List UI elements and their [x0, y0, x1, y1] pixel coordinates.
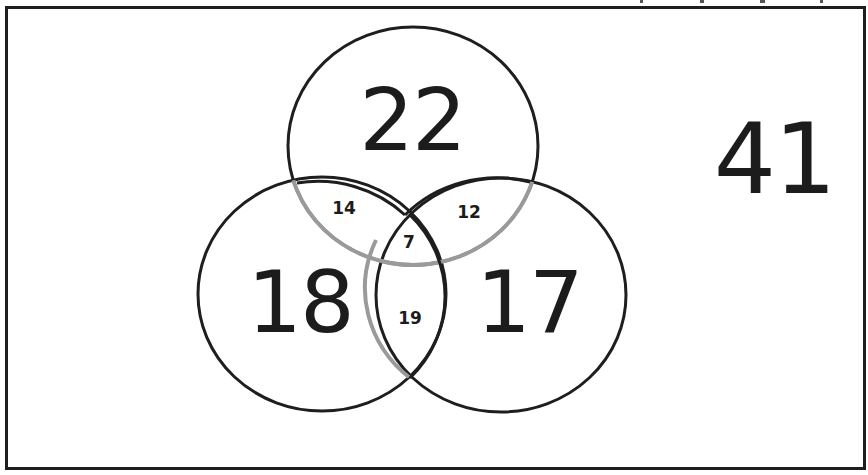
label-right-only: 17 [476, 259, 581, 345]
label-top-only: 22 [359, 77, 464, 163]
label-left-right: 19 [398, 310, 422, 327]
label-top-right: 12 [457, 204, 481, 221]
label-all-three: 7 [403, 234, 415, 251]
label-top-left: 14 [332, 200, 356, 217]
label-left-only: 18 [247, 259, 352, 345]
label-outside: 41 [714, 110, 835, 208]
